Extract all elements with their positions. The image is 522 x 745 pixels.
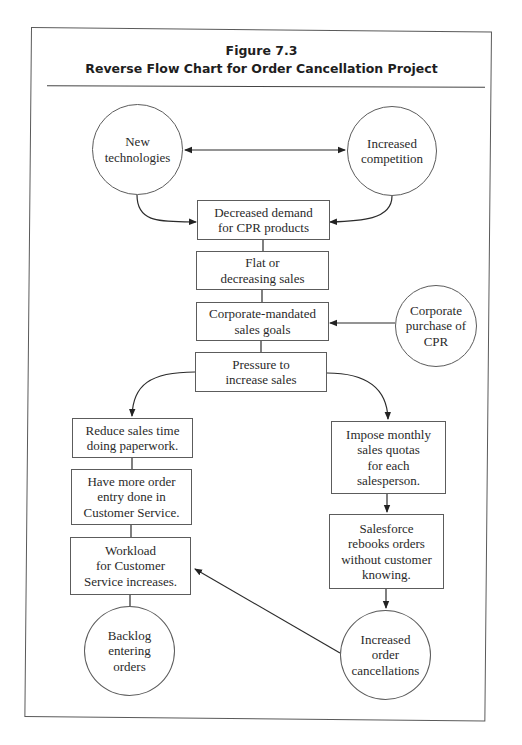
node-order-cancellations: Increased order cancellations bbox=[340, 610, 431, 700]
node-decreased-demand: Decreased demand for CPR products bbox=[197, 200, 330, 240]
edge-new-tech-demand bbox=[137, 195, 196, 222]
node-increased-competition: Increased competition bbox=[347, 106, 437, 196]
node-pressure: Pressure to increase sales bbox=[195, 352, 327, 392]
node-salesforce-rebooks: Salesforce rebooks orders without custom… bbox=[329, 514, 444, 589]
node-reduce-paperwork: Reduce sales time doing paperwork. bbox=[72, 418, 193, 458]
edge-pressure-quotas bbox=[327, 373, 388, 419]
edge-competition-demand bbox=[330, 196, 392, 222]
node-new-technologies: New technologies bbox=[92, 104, 183, 195]
edge-cancellations-workload bbox=[195, 569, 340, 653]
node-monthly-quotas: Impose monthly sales quotas for each sal… bbox=[331, 421, 446, 494]
node-workload: Workload for Customer Service increases. bbox=[70, 537, 191, 595]
node-corporate-purchase: Corporate purchase of CPR bbox=[395, 285, 477, 367]
node-flat-sales: Flat or decreasing sales bbox=[196, 251, 329, 290]
node-order-entry: Have more order entry done in Customer S… bbox=[71, 469, 192, 525]
node-backlog: Backlog entering orders bbox=[84, 606, 175, 696]
edge-pressure-reduce bbox=[132, 372, 195, 416]
node-corporate-goals: Corporate-mandated sales goals bbox=[196, 302, 329, 341]
